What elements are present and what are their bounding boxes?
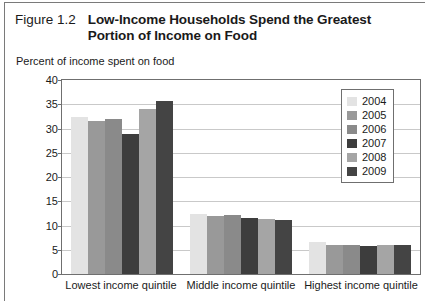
bar-2007	[241, 218, 258, 274]
y-axis-tick-label: 10	[46, 220, 58, 232]
legend-swatch-icon	[347, 125, 357, 134]
y-axis-tick-label: 0	[52, 268, 58, 280]
bar-group	[181, 80, 300, 274]
figure-header: Figure 1.2 Low-Income Households Spend t…	[5, 3, 425, 45]
bar-2004	[190, 214, 207, 274]
axis-subtitle: Percent of income spent on food	[16, 55, 174, 67]
legend-swatch-icon	[347, 97, 357, 106]
bar-2006	[224, 215, 241, 274]
chart-legend: 200420052006200720082009	[341, 89, 394, 183]
bar-2008	[139, 109, 156, 274]
legend-label: 2009	[362, 166, 386, 177]
legend-item-2004[interactable]: 2004	[347, 94, 386, 108]
y-axis-tick-mark	[58, 274, 62, 275]
y-axis-tick-label: 20	[46, 171, 58, 183]
category-label: Highest income quintile	[301, 279, 421, 291]
bar-group	[62, 80, 181, 274]
legend-swatch-icon	[347, 167, 357, 176]
legend-label: 2008	[362, 152, 386, 163]
legend-item-2009[interactable]: 2009	[347, 164, 386, 178]
bar-2005	[88, 121, 105, 274]
y-axis-tick-label: 30	[46, 123, 58, 135]
bar-2005	[207, 216, 224, 274]
legend-swatch-icon	[347, 111, 357, 120]
figure-frame: Figure 1.2 Low-Income Households Spend t…	[4, 2, 425, 301]
figure-title: Low-Income Households Spend the Greatest…	[88, 12, 415, 45]
bar-2008	[377, 245, 394, 274]
y-axis-tick-label: 5	[52, 244, 58, 256]
bar-2007	[122, 134, 139, 274]
legend-swatch-icon	[347, 139, 357, 148]
bar-2009	[394, 245, 411, 274]
legend-label: 2006	[362, 124, 386, 135]
bar-2006	[343, 245, 360, 274]
bar-2009	[275, 220, 292, 274]
category-label: Lowest income quintile	[61, 279, 181, 291]
bar-2005	[326, 245, 343, 274]
legend-item-2008[interactable]: 2008	[347, 150, 386, 164]
bar-2009	[156, 101, 173, 274]
bar-2008	[258, 219, 275, 274]
figure-number: Figure 1.2	[15, 12, 76, 45]
legend-item-2006[interactable]: 2006	[347, 122, 386, 136]
category-label: Middle income quintile	[181, 279, 301, 291]
bar-2006	[105, 119, 122, 274]
category-axis-labels: Lowest income quintileMiddle income quin…	[61, 279, 421, 291]
bar-2004	[309, 242, 326, 274]
y-axis-tick-label: 35	[46, 98, 58, 110]
legend-item-2007[interactable]: 2007	[347, 136, 386, 150]
legend-label: 2007	[362, 138, 386, 149]
bar-2004	[71, 117, 88, 274]
y-axis-tick-label: 40	[46, 74, 58, 86]
legend-swatch-icon	[347, 153, 357, 162]
bar-2007	[360, 246, 377, 274]
legend-item-2005[interactable]: 2005	[347, 108, 386, 122]
legend-label: 2005	[362, 110, 386, 121]
y-axis-tick-label: 25	[46, 147, 58, 159]
y-axis-tick-label: 15	[46, 195, 58, 207]
legend-label: 2004	[362, 96, 386, 107]
